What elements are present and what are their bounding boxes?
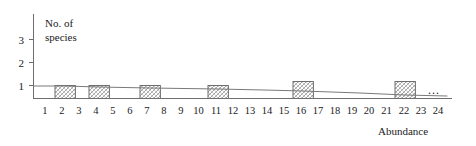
x-tick-label-12: 12 (228, 105, 239, 116)
table-row (395, 82, 415, 99)
x-tick-label-13: 13 (245, 105, 256, 116)
x-tick-label-23: 23 (416, 105, 427, 116)
x-tick-label-1: 1 (42, 105, 47, 116)
y-axis-caption: No. of species (45, 17, 77, 43)
x-tick-label-8: 8 (161, 105, 166, 116)
y-axis-label-line1: No. of (45, 17, 73, 29)
x-tick-label-7: 7 (144, 105, 149, 116)
x-tick-label-24: 24 (433, 105, 444, 116)
x-tick-label-15: 15 (279, 105, 290, 116)
table-row (293, 82, 313, 99)
table-row (55, 86, 75, 99)
chart-canvas: 1 2 3 No. of species 1 2 3 4 5 (0, 0, 476, 146)
x-tick-label-22: 22 (399, 105, 410, 116)
x-tick-label-17: 17 (313, 105, 324, 116)
ellipsis-annotation: ... (428, 83, 440, 97)
x-tick-label-19: 19 (347, 105, 358, 116)
x-tick-label-6: 6 (127, 105, 132, 116)
x-tick-label-5: 5 (110, 105, 115, 116)
x-tick-label-20: 20 (364, 105, 375, 116)
y-axis-label-line2: species (45, 31, 77, 43)
x-tick-labels: 1 2 3 4 5 6 7 8 9 10 11 12 13 14 15 16 1… (42, 105, 444, 116)
y-tick-label-3: 3 (19, 34, 25, 46)
x-tick-label-9: 9 (178, 105, 183, 116)
x-tick-label-14: 14 (262, 105, 273, 116)
x-tick-label-10: 10 (193, 105, 204, 116)
x-tick-label-3: 3 (76, 105, 81, 116)
x-tick-label-11: 11 (211, 105, 221, 116)
y-axis: 1 2 3 (19, 14, 34, 99)
x-tick-label-18: 18 (330, 105, 341, 116)
bars-group (55, 82, 415, 99)
y-tick-label-1: 1 (19, 80, 25, 92)
x-tick-label-16: 16 (296, 105, 307, 116)
species-abundance-chart: 1 2 3 No. of species 1 2 3 4 5 (0, 0, 476, 146)
x-tick-label-4: 4 (93, 105, 99, 116)
x-tick-label-2: 2 (59, 105, 64, 116)
table-row (208, 86, 228, 99)
y-tick-label-2: 2 (19, 57, 25, 69)
x-tick-label-21: 21 (381, 105, 392, 116)
x-axis-label: Abundance (378, 125, 428, 137)
